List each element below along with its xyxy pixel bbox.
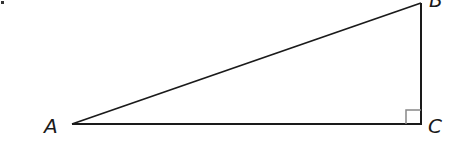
- dot-mark: [1, 1, 4, 4]
- side-ab: [72, 3, 421, 124]
- right-angle-marker: [406, 110, 421, 124]
- vertex-label-a: A: [42, 114, 58, 138]
- vertex-label-b: B: [429, 0, 443, 12]
- triangle-diagram: A B C: [0, 0, 470, 146]
- vertex-label-c: C: [428, 114, 442, 138]
